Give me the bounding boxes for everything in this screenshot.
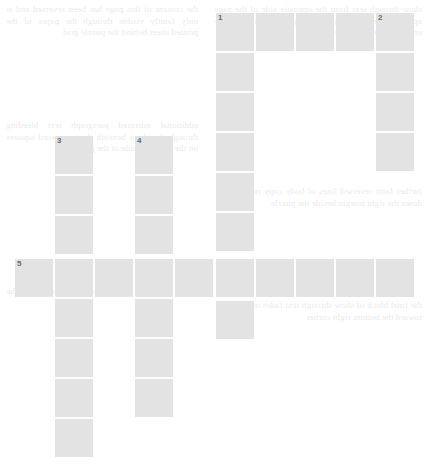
crossword-cell[interactable] [55, 339, 93, 377]
crossword-cell[interactable] [256, 259, 294, 297]
crossword-cell[interactable] [376, 53, 414, 91]
crossword-cell[interactable] [296, 259, 334, 297]
crossword-cell[interactable] [216, 53, 254, 91]
cell-number-2: 2 [378, 13, 382, 23]
cell-number-3: 3 [57, 136, 61, 146]
crossword-cell[interactable] [135, 176, 173, 214]
crossword-cell[interactable] [55, 259, 93, 297]
crossword-cell-numbered-2[interactable]: 2 [376, 13, 414, 51]
crossword-cell[interactable] [135, 259, 173, 297]
crossword-cell[interactable] [135, 299, 173, 337]
crossword-page: the content of this page has been revers… [0, 0, 426, 471]
crossword-cell-numbered-1[interactable]: 1 [216, 13, 254, 51]
crossword-cell[interactable] [336, 13, 374, 51]
crossword-cell[interactable] [376, 133, 414, 171]
crossword-cell[interactable] [135, 379, 173, 417]
crossword-cell[interactable] [376, 259, 414, 297]
crossword-cell[interactable] [135, 216, 173, 254]
cell-number-4: 4 [137, 136, 141, 146]
crossword-cell-numbered-5[interactable]: 5 [15, 259, 53, 297]
crossword-cell[interactable] [216, 213, 254, 251]
crossword-cell[interactable] [256, 13, 294, 51]
crossword-cell[interactable] [216, 301, 254, 339]
cell-number-1: 1 [218, 13, 222, 23]
crossword-cell[interactable] [135, 339, 173, 377]
crossword-cell[interactable] [216, 173, 254, 211]
crossword-cell[interactable] [55, 379, 93, 417]
crossword-cell[interactable] [55, 176, 93, 214]
crossword-grid[interactable]: 12345 [0, 0, 426, 471]
crossword-cell[interactable] [296, 13, 334, 51]
crossword-cell[interactable] [336, 259, 374, 297]
crossword-cell[interactable] [216, 133, 254, 171]
crossword-cell[interactable] [376, 93, 414, 131]
crossword-cell[interactable] [55, 419, 93, 457]
crossword-cell[interactable] [55, 216, 93, 254]
crossword-cell-numbered-3[interactable]: 3 [55, 136, 93, 174]
crossword-cell[interactable] [55, 299, 93, 337]
crossword-cell[interactable] [216, 93, 254, 131]
crossword-cell[interactable] [95, 259, 133, 297]
cell-number-5: 5 [17, 259, 21, 269]
crossword-cell[interactable] [216, 259, 254, 297]
crossword-cell[interactable] [175, 259, 213, 297]
crossword-cell-numbered-4[interactable]: 4 [135, 136, 173, 174]
